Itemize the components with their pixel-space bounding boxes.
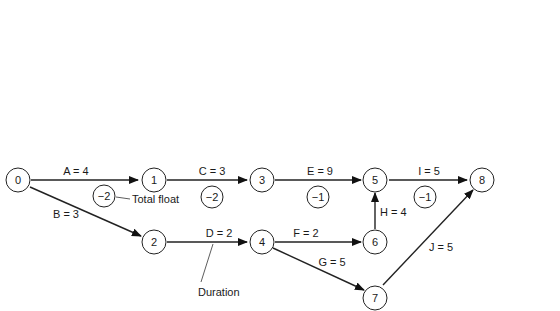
node-8: 8 — [470, 168, 494, 192]
svg-text:4: 4 — [259, 236, 265, 248]
node-2: 2 — [142, 230, 166, 254]
float-c: −2 — [201, 186, 223, 208]
network-diagram: A = 4 B = 3 C = 3 D = 2 E = 9 F = 2 G = … — [0, 0, 560, 311]
label-i: I = 5 — [418, 165, 440, 177]
edge-b — [30, 187, 141, 236]
node-3: 3 — [250, 168, 274, 192]
label-f: F = 2 — [293, 227, 318, 239]
svg-text:−1: −1 — [419, 191, 432, 203]
node-1: 1 — [142, 168, 166, 192]
svg-text:6: 6 — [372, 236, 378, 248]
node-4: 4 — [250, 230, 274, 254]
total-float-annotation: Total float — [132, 193, 179, 205]
float-a: −2 — [93, 185, 115, 207]
node-7: 7 — [363, 286, 387, 310]
label-b: B = 3 — [53, 208, 79, 220]
label-h: H = 4 — [380, 206, 407, 218]
svg-text:2: 2 — [151, 236, 157, 248]
node-6: 6 — [363, 230, 387, 254]
node-5: 5 — [363, 168, 387, 192]
label-e: E = 9 — [307, 165, 333, 177]
label-d: D = 2 — [206, 227, 233, 239]
svg-text:7: 7 — [372, 292, 378, 304]
duration-annotation: Duration — [198, 286, 240, 298]
label-j: J = 5 — [429, 241, 453, 253]
node-0: 0 — [6, 168, 30, 192]
svg-text:−2: −2 — [98, 190, 111, 202]
svg-text:5: 5 — [372, 174, 378, 186]
svg-text:−1: −1 — [312, 191, 325, 203]
svg-text:8: 8 — [479, 174, 485, 186]
float-e: −1 — [307, 186, 329, 208]
annotations: Total float Duration — [116, 193, 240, 298]
edge-g — [273, 248, 364, 290]
svg-text:3: 3 — [259, 174, 265, 186]
label-a: A = 4 — [63, 165, 88, 177]
float-i: −1 — [414, 186, 436, 208]
svg-text:1: 1 — [151, 174, 157, 186]
svg-text:−2: −2 — [206, 191, 219, 203]
label-g: G = 5 — [318, 256, 345, 268]
svg-text:0: 0 — [15, 174, 21, 186]
label-c: C = 3 — [199, 165, 226, 177]
